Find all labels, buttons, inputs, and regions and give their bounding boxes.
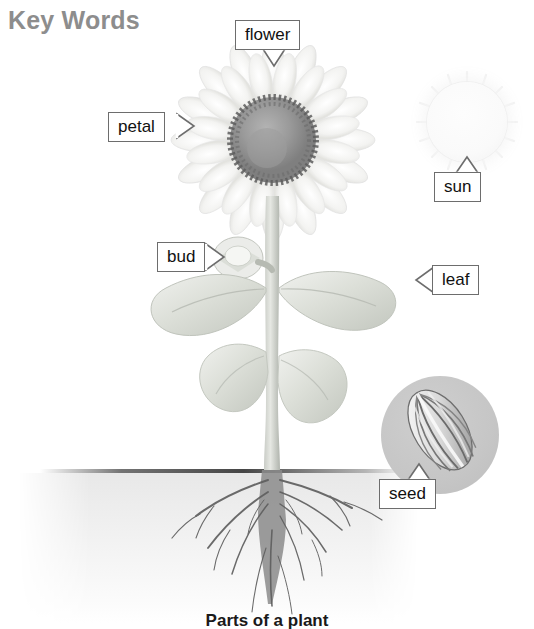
tail-seed [408, 464, 430, 480]
flower-disc [230, 97, 316, 183]
plant-stem [264, 196, 280, 470]
sunflower-plant-illustration [0, 0, 534, 629]
leaf-lower-right [278, 350, 347, 423]
label-seed[interactable]: seed [379, 479, 436, 509]
tail-sun [456, 157, 478, 173]
leaf-lower-left [200, 344, 268, 412]
label-sun[interactable]: sun [434, 172, 481, 202]
page-caption: Parts of a plant [0, 611, 534, 629]
label-bud[interactable]: bud [157, 242, 205, 272]
illustration-page: Key Words [0, 0, 534, 629]
seed-illustration [395, 379, 486, 481]
label-leaf[interactable]: leaf [432, 265, 479, 295]
leaf-upper-right [279, 271, 396, 330]
leaf-upper-left [151, 274, 266, 335]
label-flower[interactable]: flower [235, 20, 300, 50]
label-petal[interactable]: petal [108, 112, 165, 142]
